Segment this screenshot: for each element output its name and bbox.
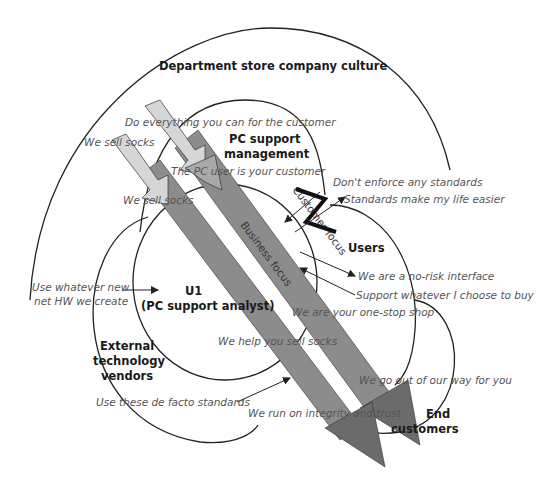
msg-we-sell-socks-2: We sell socks [123,194,194,206]
vendors-label-3: vendors [101,369,153,383]
msg-help-sell: We help you sell socks [218,335,338,347]
msg-standards-easier: Standards make my life easier [344,193,505,205]
msg-dont-enforce: Don't enforce any standards [333,176,483,188]
msg-do-everything: Do everything you can for the customer [125,116,336,128]
msg-pc-user-customer: The PC user is your customer [171,165,326,177]
vendors-circle [93,217,258,443]
msg-use-whatever-1: Use whatever new [32,281,130,293]
u1-label-1: U1 [185,284,202,298]
msg-defacto: Use these de facto standards [96,396,250,408]
msg-one-stop: We are your one-stop shop [292,306,435,318]
culture-diagram: Customer focus Business focus Department… [0,0,545,480]
culture-label: Department store company culture [159,59,387,73]
pc-management-label-1: PC support [229,132,301,146]
msg-out-of-way: We go out of our way for you [359,374,512,386]
users-label: Users [348,241,385,255]
msg-we-sell-socks-1: We sell socks [84,136,155,148]
msg-use-whatever-2: net HW we create [34,295,128,307]
u1-label-2: (PC support analyst) [141,299,274,313]
msg-integrity: We run on integrity and trust [248,407,402,419]
end-customers-label-1: End [426,407,450,421]
msg-no-risk: We are a no-risk interface [358,270,494,282]
vendors-label-1: External [100,339,154,353]
msg-support-whatever: Support whatever I choose to buy [356,289,535,301]
end-customers-label-2: customers [391,422,459,436]
pc-management-label-2: management [224,147,310,161]
customer-focus-label: Customer focus [290,184,349,257]
vendors-label-2: technology [93,354,165,368]
